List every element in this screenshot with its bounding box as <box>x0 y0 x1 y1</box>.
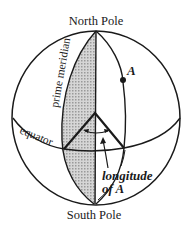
longitude-label-line2: of A <box>102 181 125 196</box>
globe-longitude-diagram: North Pole South Pole A prime meridian e… <box>0 0 188 231</box>
pointer-arrow-to-angle <box>103 140 108 168</box>
south-pole-label: South Pole <box>67 208 122 222</box>
central-meridian-line <box>95 31 96 204</box>
point-A-label: A <box>126 63 136 78</box>
pointer-arrowhead-icon <box>100 137 106 144</box>
equator-label: equator <box>18 124 55 149</box>
north-pole-label: North Pole <box>69 14 124 28</box>
point-A-dot <box>120 77 126 83</box>
